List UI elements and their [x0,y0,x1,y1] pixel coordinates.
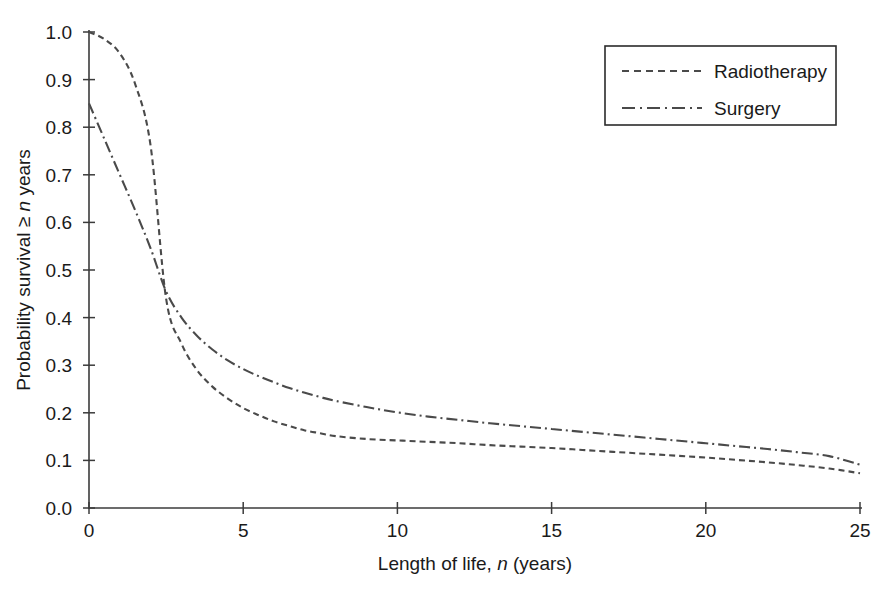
y-tick-label: 0.6 [46,212,72,233]
series-line-surgery [89,103,860,464]
y-tick-label: 0.8 [46,117,72,138]
x-tick-label: 15 [541,520,562,541]
x-axis-title: Length of life, n (years) [378,553,572,574]
x-tick-label: 20 [695,520,716,541]
y-tick-label: 0.1 [46,450,72,471]
y-tick-label: 0.9 [46,70,72,91]
y-tick-label: 0.2 [46,403,72,424]
chart-figure: 0.00.10.20.30.40.50.60.70.80.91.0 051015… [0,0,888,592]
x-tick-label: 10 [387,520,408,541]
y-tick-label: 0.5 [46,260,72,281]
legend-label-surgery: Surgery [714,98,781,119]
chart-legend: Radiotherapy Surgery [605,46,836,125]
y-axis-ticks: 0.00.10.20.30.40.50.60.70.80.91.0 [46,22,95,519]
y-tick-label: 0.7 [46,165,72,186]
chart-canvas: 0.00.10.20.30.40.50.60.70.80.91.0 051015… [0,0,888,592]
x-tick-label: 25 [849,520,870,541]
y-tick-label: 0.3 [46,355,72,376]
x-tick-label: 5 [238,520,249,541]
x-tick-label: 0 [84,520,95,541]
y-tick-label: 0.4 [46,308,73,329]
y-axis-title: Probability survival ≥ n years [13,149,34,391]
y-tick-label: 1.0 [46,22,72,43]
y-tick-label: 0.0 [46,498,72,519]
legend-label-radiotherapy: Radiotherapy [714,61,828,82]
